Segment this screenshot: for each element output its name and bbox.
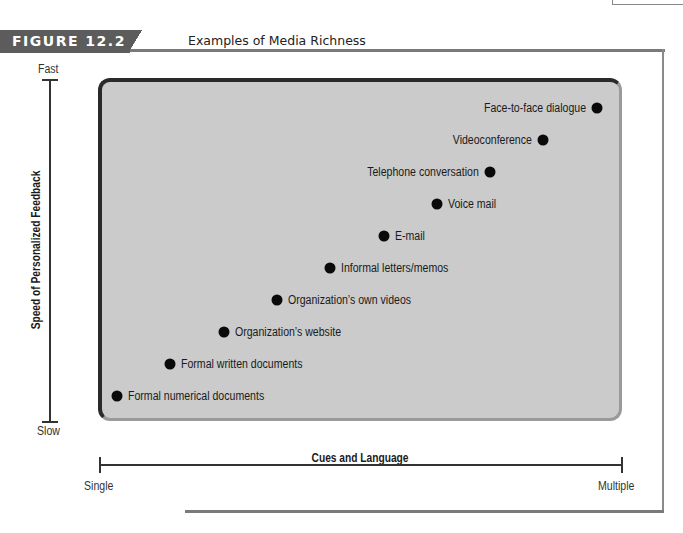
data-point-label: Organization’s website bbox=[235, 325, 341, 339]
figure-number: FIGURE 12.2 bbox=[12, 33, 126, 50]
x-axis-line bbox=[100, 464, 622, 466]
data-point-marker bbox=[592, 103, 603, 114]
data-point-label: Organization’s own videos bbox=[288, 293, 411, 307]
frame-right-rule bbox=[662, 49, 664, 513]
data-point-marker bbox=[219, 327, 230, 338]
page-corner-box bbox=[612, 0, 683, 5]
y-axis-line bbox=[49, 80, 51, 422]
data-point-marker bbox=[379, 231, 390, 242]
x-axis-left-label: Single bbox=[84, 479, 113, 493]
y-axis-top-label: Fast bbox=[38, 62, 59, 76]
figure-title: Examples of Media Richness bbox=[188, 33, 366, 48]
x-axis-right-label: Multiple bbox=[598, 479, 634, 493]
plot-area bbox=[98, 78, 622, 421]
data-point-label: Telephone conversation bbox=[367, 165, 479, 179]
data-point-label: Informal letters/memos bbox=[341, 261, 448, 275]
y-axis-title-text: Speed of Personalized Feedback bbox=[29, 171, 43, 330]
data-point-label: Videoconference bbox=[453, 133, 532, 147]
data-point-label: Face-to-face dialogue bbox=[484, 101, 586, 115]
data-point-marker bbox=[272, 295, 283, 306]
data-point-label: E-mail bbox=[395, 229, 425, 243]
data-point-marker bbox=[112, 391, 123, 402]
data-point-label: Formal written documents bbox=[181, 357, 302, 371]
x-axis-title: Cues and Language bbox=[267, 451, 454, 465]
y-axis-bottom-label: Slow bbox=[37, 424, 60, 438]
data-point-marker bbox=[325, 263, 336, 274]
data-point-marker bbox=[485, 167, 496, 178]
y-axis-bottom-tick bbox=[42, 421, 58, 423]
frame-top-rule bbox=[130, 49, 665, 52]
data-point-label: Voice mail bbox=[448, 197, 496, 211]
data-point-marker bbox=[165, 359, 176, 370]
data-point-marker bbox=[432, 199, 443, 210]
data-point-marker bbox=[538, 135, 549, 146]
data-point-label: Formal numerical documents bbox=[128, 389, 264, 403]
x-axis-right-tick bbox=[621, 457, 623, 473]
frame-bottom-rule bbox=[185, 510, 664, 513]
